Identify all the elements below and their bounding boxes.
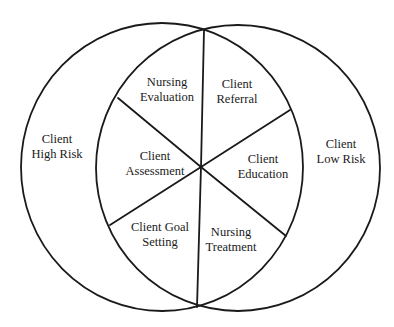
label-line: Assessment bbox=[125, 164, 184, 179]
spoke-bottom bbox=[197, 167, 201, 307]
label-nursing-evaluation: Nursing Evaluation bbox=[140, 75, 194, 105]
label-line: Low Risk bbox=[317, 152, 366, 167]
label-client-goal-setting: Client Goal Setting bbox=[131, 220, 189, 250]
label-line: Client bbox=[125, 149, 184, 164]
label-line: Nursing bbox=[206, 225, 257, 240]
spoke-top bbox=[201, 30, 204, 167]
label-client-assessment: Client Assessment bbox=[125, 149, 184, 179]
label-line: Nursing bbox=[140, 75, 194, 90]
label-client-education: Client Education bbox=[238, 152, 289, 182]
label-line: Education bbox=[238, 167, 289, 182]
label-client-referral: Client Referral bbox=[217, 77, 258, 107]
label-line: Evaluation bbox=[140, 90, 194, 105]
label-nursing-treatment: Nursing Treatment bbox=[206, 225, 257, 255]
label-line: Client bbox=[238, 152, 289, 167]
venn-diagram: Client High Risk Client Low Risk Nursing… bbox=[0, 0, 394, 327]
label-client-high-risk: Client High Risk bbox=[31, 132, 82, 162]
label-line: High Risk bbox=[31, 147, 82, 162]
label-line: Client bbox=[217, 77, 258, 92]
label-line: Client bbox=[317, 137, 366, 152]
label-line: Client Goal bbox=[131, 220, 189, 235]
label-client-low-risk: Client Low Risk bbox=[317, 137, 366, 167]
label-line: Setting bbox=[131, 235, 189, 250]
label-line: Treatment bbox=[206, 240, 257, 255]
label-line: Client bbox=[31, 132, 82, 147]
label-line: Referral bbox=[217, 92, 258, 107]
